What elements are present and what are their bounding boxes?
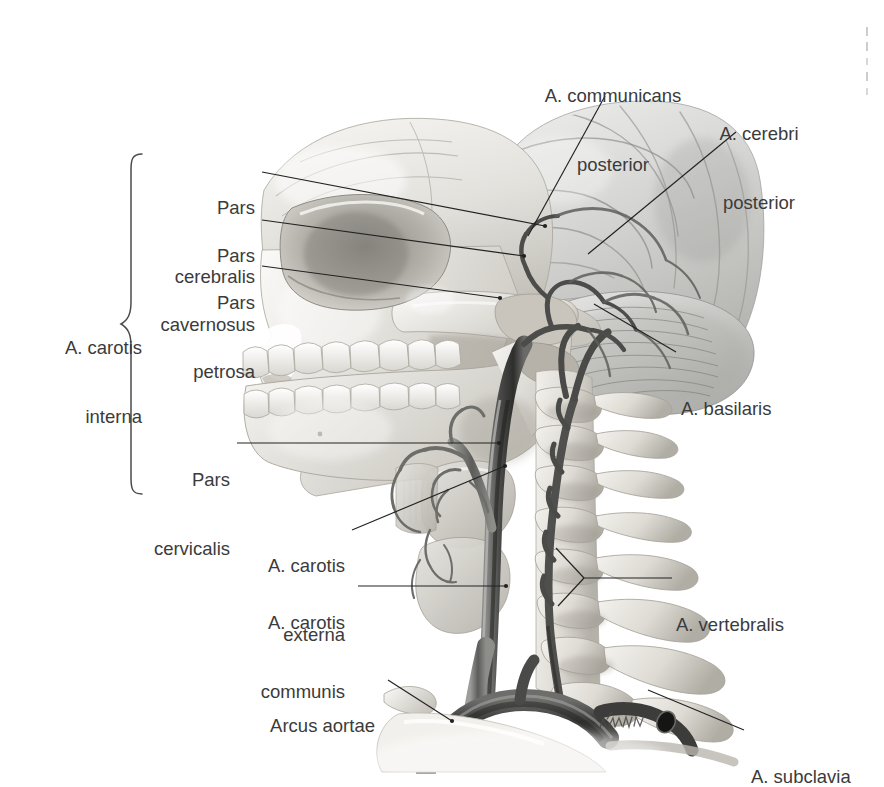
label-line: Pars	[105, 468, 230, 491]
label-line: A. cerebri	[709, 122, 809, 145]
label-line: Arcus aortae	[210, 714, 375, 737]
label-line: A. communicans	[533, 84, 693, 107]
label-line: A. carotis	[30, 336, 142, 359]
label-pars-petrosa: Pars petrosa	[130, 245, 255, 406]
label-line: A. carotis	[180, 611, 345, 634]
label-a-basilaris: A. basilaris	[681, 351, 841, 443]
label-line: posterior	[533, 153, 693, 176]
label-a-communicans-posterior: A. communicans posterior	[533, 38, 693, 199]
cropped-text-column-edge	[866, 24, 884, 100]
label-line: A. subclavia	[751, 765, 884, 787]
label-line: Pars	[130, 291, 255, 314]
label-line: A. vertebralis	[676, 613, 846, 636]
label-arcus-aortae: Arcus aortae	[210, 668, 375, 760]
label-line: posterior	[709, 191, 809, 214]
label-line: A. basilaris	[681, 397, 841, 420]
label-line: petrosa	[130, 360, 255, 383]
label-a-subclavia: A. subclavia	[751, 719, 884, 787]
label-a-cerebri-posterior: A. cerebri posterior	[709, 76, 809, 237]
label-a-vertebralis: A. vertebralis	[676, 567, 846, 659]
